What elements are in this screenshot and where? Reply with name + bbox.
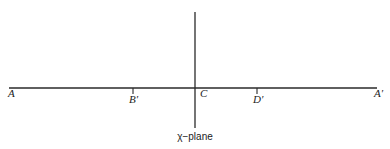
label-c: C [200,87,208,99]
chi-plane-diagram: A B′ C D′ A′ χ−plane [0,0,390,149]
label-a: A [7,87,15,99]
label-a-prime: A′ [373,87,384,99]
diagram-caption: χ−plane [177,131,213,142]
label-d-prime: D′ [252,93,264,105]
label-b-prime: B′ [129,93,139,105]
